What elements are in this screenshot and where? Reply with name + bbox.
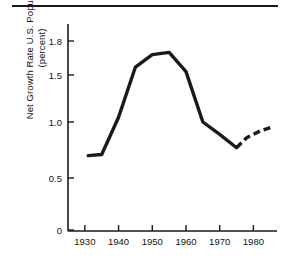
y-tick-labels: 00.51.01.51.8 [49, 36, 62, 236]
x-tick-label: 1970 [209, 236, 230, 247]
y-tick-label: 1.5 [49, 70, 62, 81]
data-line-projected [237, 128, 271, 148]
y-tick-label: 0 [57, 225, 62, 236]
x-tick-label: 1960 [175, 236, 196, 247]
data-line-observed [88, 52, 236, 155]
x-tick-label: 1980 [243, 236, 264, 247]
chart-plot-area: 00.51.01.51.8 193019401950196019701980 [0, 0, 287, 260]
x-tick-labels: 193019401950196019701980 [74, 236, 264, 247]
y-tick-label: 0.5 [49, 173, 62, 184]
x-tick-marks [85, 225, 254, 231]
y-tick-marks [68, 41, 74, 230]
figure: Net Growth Rate U.S. Population (percent… [0, 0, 287, 260]
x-tick-label: 1940 [108, 236, 129, 247]
y-tick-label: 1.8 [49, 36, 62, 47]
x-tick-label: 1950 [142, 236, 163, 247]
y-tick-label: 1.0 [49, 117, 62, 128]
x-tick-label: 1930 [74, 236, 95, 247]
